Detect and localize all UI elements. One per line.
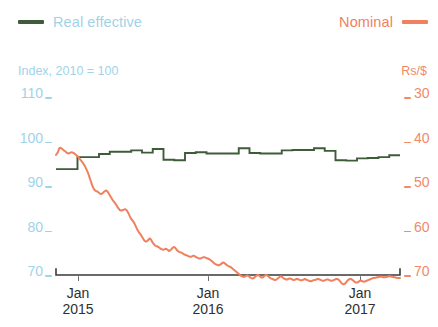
series-line-real-effective [56, 148, 400, 169]
x-axis-baseline [56, 269, 400, 275]
series-line-nominal [56, 148, 400, 285]
chart-container: Real effective Nominal Index, 2010 = 100… [0, 0, 438, 327]
plot-area [0, 0, 438, 327]
